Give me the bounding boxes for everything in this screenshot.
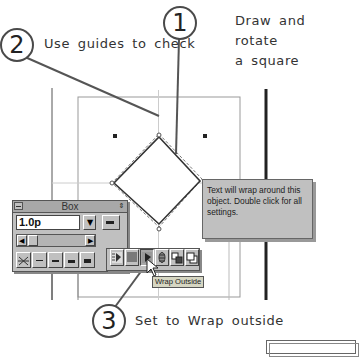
callout-3-number: 3 bbox=[101, 307, 116, 335]
callout-3-text: Set to Wrap outside bbox=[135, 311, 284, 331]
rotation-handle-left bbox=[110, 181, 114, 185]
slider-thumb[interactable] bbox=[28, 235, 38, 246]
handle-right bbox=[203, 134, 207, 138]
arrow-down-icon: ▼ bbox=[87, 218, 93, 228]
callout-2-leader bbox=[25, 57, 159, 116]
callout-3-leader bbox=[112, 266, 145, 311]
callout-3-badge: 3 bbox=[92, 304, 126, 338]
up-down-arrow-icon[interactable]: ⇕ bbox=[117, 202, 126, 211]
line-style-medium-button[interactable] bbox=[64, 252, 79, 268]
slider-left-arrow[interactable]: ◀ bbox=[17, 235, 27, 246]
callout-1-number: 1 bbox=[172, 9, 187, 37]
wrap-hint-text: Text will wrap around this object. Doubl… bbox=[207, 185, 302, 217]
wrap-through-button[interactable] bbox=[125, 249, 139, 266]
line-end-icon bbox=[106, 221, 114, 224]
window-frame-fragment bbox=[266, 340, 356, 354]
tooltip-text: Wrap Outside bbox=[155, 277, 201, 286]
line-style-thick-button[interactable] bbox=[80, 252, 95, 268]
hairline-icon bbox=[36, 260, 43, 261]
callout-2-text: Use guides to check bbox=[44, 34, 195, 54]
wrap-none-button[interactable] bbox=[110, 249, 124, 266]
callout-2-badge: 2 bbox=[0, 28, 34, 62]
line-style-hairline-button[interactable] bbox=[32, 252, 47, 268]
handle-left bbox=[113, 134, 117, 138]
mouse-pointer-icon bbox=[146, 258, 160, 278]
rotation-handle-top bbox=[157, 133, 161, 137]
line-style-none-button[interactable] bbox=[16, 252, 31, 268]
callout-2-number: 2 bbox=[9, 31, 24, 59]
wrap-none-icon bbox=[111, 250, 123, 265]
no-line-icon bbox=[17, 254, 30, 268]
line-weight-dropdown-button[interactable]: ▼ bbox=[83, 215, 96, 230]
bring-forward-icon bbox=[171, 250, 183, 265]
send-backward-button[interactable] bbox=[185, 249, 199, 266]
rotation-handle-bottom bbox=[157, 227, 161, 231]
line-weight-input[interactable]: 1.0p bbox=[16, 215, 80, 230]
medium-line-icon bbox=[68, 260, 75, 263]
callout-1-line2: a square bbox=[235, 51, 348, 71]
wrap-outside-tooltip: Wrap Outside bbox=[152, 276, 204, 288]
wrap-through-icon bbox=[126, 250, 138, 265]
palette-title: Box bbox=[13, 201, 127, 212]
wrap-hint-box: Text will wrap around this object. Doubl… bbox=[202, 179, 313, 239]
thin-line-icon bbox=[52, 260, 59, 262]
line-weight-slider[interactable]: ◀ ▶ bbox=[16, 234, 96, 247]
thick-line-icon bbox=[84, 259, 91, 263]
line-style-thin-button[interactable] bbox=[48, 252, 63, 268]
callout-1-text: Draw and rotate a square bbox=[235, 11, 348, 71]
send-backward-icon bbox=[186, 250, 198, 265]
bring-forward-button[interactable] bbox=[170, 249, 184, 266]
palette-title-bar[interactable]: Box ⇕ bbox=[13, 201, 127, 213]
line-end-button[interactable] bbox=[102, 215, 120, 230]
slider-right-arrow[interactable]: ▶ bbox=[85, 235, 95, 246]
callout-1-line1: Draw and rotate bbox=[235, 11, 348, 51]
